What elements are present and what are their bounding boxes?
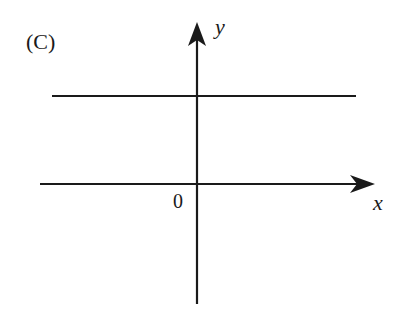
y-axis-label: y <box>213 14 225 39</box>
graph-canvas: (C) y x 0 <box>0 0 399 329</box>
x-axis-label: x <box>372 190 383 215</box>
panel-label: (C) <box>26 29 55 54</box>
origin-label: 0 <box>173 190 183 212</box>
